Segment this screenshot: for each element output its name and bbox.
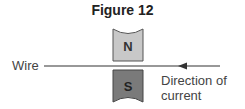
wire-label: Wire (12, 58, 39, 73)
south-label: S (124, 79, 133, 94)
direction-label-line1: Direction of (161, 73, 227, 88)
north-pole-magnet: N (113, 29, 143, 61)
south-pole-magnet: S (113, 70, 143, 102)
direction-label-line2: current (161, 88, 227, 103)
north-label: N (123, 39, 132, 54)
current-arrow-icon (178, 63, 187, 70)
direction-label: Direction of current (161, 73, 227, 103)
